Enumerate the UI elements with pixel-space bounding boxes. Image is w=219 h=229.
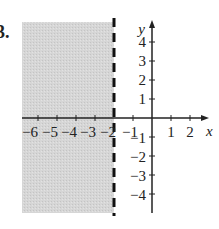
problem-number: 3. <box>0 22 10 42</box>
y-tick-label: 3 <box>139 53 147 69</box>
y-tick-label: 1 <box>139 91 147 107</box>
y-tick-label: 2 <box>139 72 147 88</box>
y-tick-label: −3 <box>130 168 146 184</box>
x-tick-label: −4 <box>61 124 77 140</box>
x-axis-arrow-icon <box>201 115 209 121</box>
x-tick-label: −6 <box>22 124 38 140</box>
x-tick-label: −2 <box>100 124 116 140</box>
x-tick-label: 1 <box>167 124 175 140</box>
x-tick-label: −3 <box>80 124 96 140</box>
x-tick-label: 2 <box>186 124 194 140</box>
y-tick-label: −2 <box>130 149 146 165</box>
y-tick-label: −1 <box>130 130 146 146</box>
x-axis-label: x <box>205 123 213 139</box>
x-tick-label: −5 <box>42 124 58 140</box>
y-tick-label: −4 <box>130 187 146 203</box>
y-tick-label: 4 <box>139 34 147 50</box>
inequality-graph: 3. −6 −5 −4 −3 −2 −1 1 2 x y 4 3 2 <box>0 0 219 229</box>
y-axis-arrow-icon <box>149 20 155 28</box>
